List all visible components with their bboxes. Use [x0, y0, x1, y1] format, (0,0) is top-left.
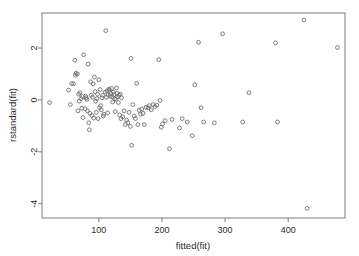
y-tick-label: -4: [29, 200, 39, 208]
y-tick-label: 0: [29, 97, 39, 102]
plot-canvas: 100200300400 20-2-4 fitted(fit) rstandar…: [0, 0, 359, 256]
residual-scatter-plot: 100200300400 20-2-4 fitted(fit) rstandar…: [0, 0, 359, 256]
x-axis-label: fitted(fit): [176, 240, 210, 251]
x-tick-label: 300: [218, 225, 233, 235]
x-tick-label: 200: [154, 225, 169, 235]
y-axis-label: rstandard(fit): [7, 88, 18, 142]
x-tick-label: 400: [281, 225, 296, 235]
y-tick-label: 2: [29, 46, 39, 51]
x-tick-label: 100: [91, 225, 106, 235]
y-tick-label: -2: [29, 148, 39, 156]
